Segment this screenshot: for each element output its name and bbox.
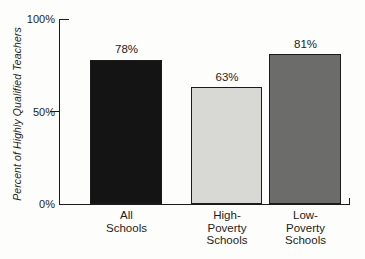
- bar-value-label-2: 63%: [215, 71, 238, 83]
- y-axis-tick-50: [50, 111, 59, 112]
- category-label-3: Low- Poverty Schools: [285, 209, 326, 247]
- bar-3: [269, 54, 341, 204]
- y-axis-top-tick: [59, 19, 69, 20]
- bar-value-label-1: 78%: [115, 43, 138, 55]
- x-axis-end-tick: [349, 198, 350, 204]
- y-tick-label-100: 100%: [12, 12, 55, 26]
- category-label-2: High- Poverty Schools: [207, 209, 248, 247]
- bar-2: [191, 87, 262, 204]
- bar-value-label-3: 81%: [294, 38, 317, 50]
- bar-1: [90, 60, 162, 204]
- y-tick-label-0: 0%: [12, 197, 55, 211]
- y-tick-label-50: 50%: [12, 105, 55, 119]
- bar-chart-figure: Percent of Highly Qualified Teachers 100…: [0, 0, 365, 259]
- category-label-1: All Schools: [106, 209, 147, 234]
